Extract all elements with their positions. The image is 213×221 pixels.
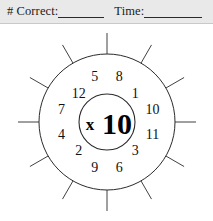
wheel-number: 2 xyxy=(75,143,82,158)
operator-symbol: x xyxy=(86,115,95,134)
wheel-number: 10 xyxy=(145,102,159,117)
correct-input-blank[interactable] xyxy=(58,5,104,18)
wheel-number: 9 xyxy=(91,160,98,175)
wheel-number: 8 xyxy=(116,69,123,84)
wheel-number: 3 xyxy=(132,143,139,158)
multiplication-wheel: 811011369247125 x 10 xyxy=(0,24,213,221)
wheel-number: 6 xyxy=(116,160,123,175)
wheel-number: 12 xyxy=(72,86,86,101)
multiplier-value: 10 xyxy=(102,107,132,140)
worksheet-page: # Correct: Time: 811011369247125 x 10 xyxy=(0,0,213,221)
wheel-number: 7 xyxy=(58,102,65,117)
wheel-svg: 811011369247125 x 10 xyxy=(0,24,213,221)
wheel-number: 5 xyxy=(91,69,98,84)
wheel-number: 4 xyxy=(58,127,65,142)
correct-label: # Correct: xyxy=(7,4,58,19)
wheel-number: 11 xyxy=(146,127,159,142)
time-label: Time: xyxy=(114,4,144,19)
worksheet-header: # Correct: Time: xyxy=(0,0,213,24)
wheel-number: 1 xyxy=(132,86,139,101)
time-input-blank[interactable] xyxy=(144,5,202,18)
